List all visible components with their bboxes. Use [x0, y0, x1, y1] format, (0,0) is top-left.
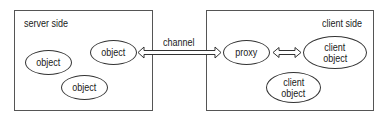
server-side-label: server side: [24, 18, 68, 29]
server-object-bottom: object: [61, 75, 108, 100]
client-object-right: client object: [303, 36, 367, 69]
server-object-left: object: [25, 50, 72, 75]
proxy-node: proxy: [223, 40, 270, 65]
server-object-right: object: [90, 40, 137, 65]
client-side-label: client side: [322, 18, 362, 29]
channel-label: channel: [163, 37, 195, 48]
client-object-bottom: client object: [266, 72, 321, 103]
